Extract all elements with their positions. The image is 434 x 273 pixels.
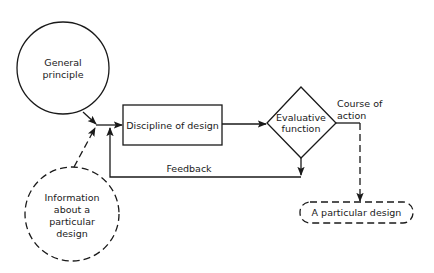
node-evaluative: Evaluative function (267, 87, 336, 158)
information-label-line1: Information (45, 192, 100, 203)
evaluative-label-line2: function (282, 123, 321, 134)
course-of-action-label-line1: Course of (337, 98, 383, 109)
general-principle-label-line1: General (44, 57, 81, 68)
information-label-line2: about a (54, 204, 90, 215)
node-discipline: Discipline of design (123, 105, 222, 145)
particular-design-label: A particular design (312, 207, 402, 218)
node-particular-design: A particular design (300, 202, 413, 223)
node-information: Information about a particular design (25, 167, 119, 261)
information-label-line3: particular (49, 216, 95, 227)
node-general-principle: General principle (17, 22, 109, 114)
edge-information-to-junction (74, 128, 95, 167)
edge-general-principle-to-junction (83, 112, 96, 124)
general-principle-label-line2: principle (43, 69, 84, 80)
discipline-label: Discipline of design (126, 120, 219, 131)
information-label-line4: design (56, 228, 88, 239)
design-process-diagram: General principle Information about a pa… (0, 0, 434, 273)
feedback-label: Feedback (166, 163, 212, 174)
course-of-action-label-line2: action (337, 110, 366, 121)
evaluative-label-line1: Evaluative (276, 112, 326, 123)
edge-course-of-action: Course of action (336, 98, 383, 201)
general-principle-circle (17, 22, 109, 114)
